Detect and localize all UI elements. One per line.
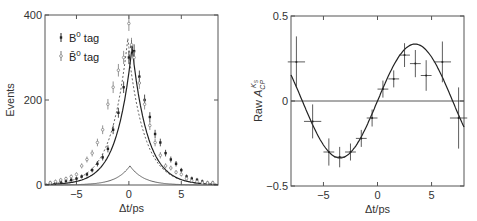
asymmetry-data-point	[360, 137, 362, 139]
asymmetry-data-point	[328, 151, 330, 153]
b0-data-point	[122, 86, 124, 88]
b0-data-point	[101, 156, 103, 158]
asymmetry-data-point	[393, 78, 395, 80]
b0bar-data-point	[80, 165, 83, 168]
b0bar-data-point	[107, 103, 110, 106]
b0-data-point	[175, 163, 177, 165]
x-tick-label: −5	[70, 188, 83, 200]
b0bar-data-point	[96, 141, 99, 144]
asymmetry-data-point	[382, 88, 384, 90]
y-tick-label: 0	[282, 95, 288, 107]
b0bar-data-point	[154, 141, 157, 144]
b0-data-point	[112, 129, 114, 131]
b0-data-point	[170, 158, 172, 160]
b0bar-data-point	[185, 177, 188, 180]
asymmetry-data-point	[371, 117, 373, 119]
x-tick-label: −5	[317, 189, 330, 201]
b0bar-data-point	[65, 177, 68, 180]
b0bar-data-point	[159, 154, 162, 157]
b0bar-data-point	[143, 103, 146, 106]
b0bar-data-point	[138, 82, 141, 85]
b0-data-point	[80, 175, 82, 177]
x-axis-label: Δt/ps	[119, 202, 145, 214]
b0-data-point	[75, 177, 77, 179]
b0bar-data-point	[91, 152, 94, 155]
b0bar-data-point	[86, 158, 89, 161]
y-tick-label: 200	[24, 94, 42, 106]
b0-data-point	[70, 179, 72, 181]
asymmetry-data-point	[404, 54, 406, 56]
y-tick-label: 0	[36, 179, 42, 191]
asymmetry-panel: −505−0.500.5Δt/psRaw ACPKS	[250, 10, 467, 215]
b0bar-data-point	[122, 56, 125, 59]
asymmetry-data-point	[312, 120, 314, 122]
b0-data-point	[180, 169, 182, 171]
asymmetry-data-point	[295, 61, 297, 63]
b0bar-data-point	[190, 179, 193, 182]
b0bar-data-point	[101, 128, 104, 131]
b0-data-point	[86, 173, 88, 175]
b0bar-data-point	[211, 182, 214, 185]
chart-canvas: −5050200400Δt/psEventsB0 tagB̄0 tag−505−…	[0, 0, 477, 221]
b0bar-data-point	[149, 124, 152, 127]
b0bar-data-point	[180, 173, 183, 176]
b0bar-data-point	[201, 182, 204, 185]
y-axis-label: Raw ACPKS	[250, 79, 266, 122]
asymmetry-data-point	[441, 61, 443, 63]
b0-data-point	[117, 112, 119, 114]
b0bar-data-point	[133, 56, 136, 59]
b0bar-data-point	[196, 180, 199, 183]
b0-fit-curve	[45, 47, 218, 185]
b0bar-data-point	[170, 167, 173, 170]
b0-data-point	[149, 116, 151, 118]
asymmetry-data-point	[425, 75, 427, 77]
b0bar-data-point	[59, 179, 62, 182]
y-axis-label: Events	[4, 83, 16, 117]
b0-data-point	[91, 169, 93, 171]
y-tick-label: 400	[24, 9, 42, 21]
x-tick-label: 0	[374, 189, 380, 201]
b0-data-point	[96, 163, 98, 165]
x-tick-label: 0	[126, 188, 132, 200]
x-axis-label: Δt/ps	[365, 203, 391, 215]
b0bar-data-point	[130, 43, 133, 46]
events-panel: −5050200400Δt/psEventsB0 tagB̄0 tag	[4, 9, 218, 214]
x-tick-label: 5	[429, 189, 435, 201]
legend-b0bar-marker	[60, 55, 63, 58]
b0bar-data-point	[206, 182, 209, 185]
legend-b0-label: B0 tag	[69, 30, 99, 44]
b0-data-point	[164, 152, 166, 154]
b0bar-data-point	[75, 173, 78, 176]
y-tick-label: −0.5	[266, 180, 288, 192]
asymmetry-data-point	[458, 117, 460, 119]
asymmetry-data-point	[349, 151, 351, 153]
b0-data-point	[128, 56, 130, 58]
legend: B0 tagB̄0 tag	[60, 30, 100, 63]
b0bar-data-point	[164, 165, 167, 168]
b0bar-data-point	[70, 175, 73, 178]
b0-data-point	[154, 133, 156, 135]
b0bar-data-point	[54, 180, 57, 183]
legend-b0-marker	[60, 36, 62, 38]
asymmetry-data-point	[339, 156, 341, 158]
asymmetry-data-point	[414, 63, 416, 65]
legend-b0bar-label: B̄0 tag	[69, 49, 99, 63]
b0bar-data-point	[117, 69, 120, 72]
y-tick-label: 0.5	[273, 10, 288, 22]
b0bar-data-point	[128, 22, 131, 25]
b0bar-data-point	[175, 171, 178, 174]
x-tick-label: 5	[178, 188, 184, 200]
b0-data-point	[107, 148, 109, 150]
b0bar-data-point	[112, 86, 115, 89]
b0bar-data-point	[49, 182, 52, 185]
b0-data-point	[159, 141, 161, 143]
